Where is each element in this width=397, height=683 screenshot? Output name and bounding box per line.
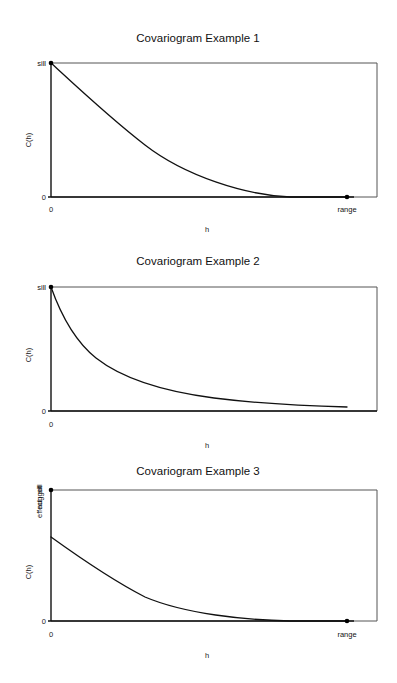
y-tick-zero-2: 0 (42, 407, 46, 416)
chart-title-3: Covariogram Example 3 (136, 465, 259, 477)
range-point-marker-1 (345, 195, 350, 200)
y-tick-zero-1: 0 (42, 193, 46, 202)
y-axis-label-2: C(h) (24, 347, 33, 362)
sill-point-marker-1 (49, 61, 54, 66)
x-axis-label-1: h (205, 225, 209, 234)
x-axis-label-3: h (205, 651, 209, 660)
sill-point-marker-2 (49, 285, 54, 290)
chart-canvas-1: Covariogram Example 1 sill 0 0 range h C… (0, 0, 397, 240)
chart-title-2: Covariogram Example 2 (136, 255, 259, 267)
plot-frame-2 (51, 287, 377, 411)
covariogram-curve-3 (51, 537, 347, 621)
chart-canvas-2: Covariogram Example 2 sill 0 0 h C(h) (0, 240, 397, 462)
covariogram-figure-3: Covariogram Example 3 sill nugget effect… (0, 462, 397, 683)
covariogram-curve-2 (51, 287, 347, 407)
x-tick-range-1: range (337, 205, 356, 214)
range-point-marker-3 (345, 619, 350, 624)
plot-frame-1 (51, 63, 377, 197)
nugget-effect-label-line2-3: effect (35, 499, 44, 518)
sill-point-marker-3 (49, 488, 54, 493)
x-tick-zero-3: 0 (49, 630, 53, 639)
y-axis-label-3: C(h) (24, 564, 33, 579)
x-tick-range-3: range (337, 630, 356, 639)
chart-title-1: Covariogram Example 1 (136, 32, 259, 44)
covariogram-curve-1 (51, 63, 347, 197)
sill-label-2: sill (37, 283, 46, 292)
plot-frame-3 (51, 490, 377, 621)
y-axis-label-1: C(h) (24, 132, 33, 147)
x-tick-zero-2: 0 (49, 420, 53, 429)
y-tick-zero-3: 0 (42, 617, 46, 626)
chart-canvas-3: Covariogram Example 3 sill nugget effect… (0, 462, 397, 683)
covariogram-figure-2: Covariogram Example 2 sill 0 0 h C(h) (0, 240, 397, 462)
covariogram-figure-1: Covariogram Example 1 sill 0 0 range h C… (0, 0, 397, 240)
x-axis-label-2: h (205, 441, 209, 450)
x-tick-zero-1: 0 (49, 205, 53, 214)
sill-label-1: sill (37, 59, 46, 68)
